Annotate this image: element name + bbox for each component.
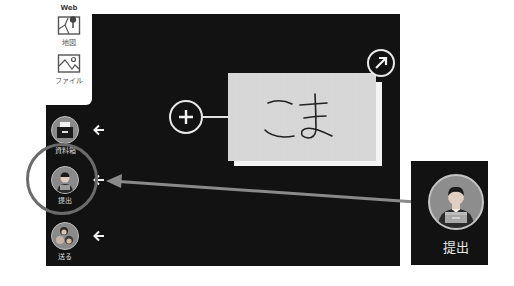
add-button[interactable] bbox=[169, 100, 203, 134]
callout-label: 提出 bbox=[411, 237, 501, 256]
tool-file[interactable]: ファイル bbox=[46, 52, 92, 85]
plus-icon bbox=[171, 102, 201, 132]
submit-person-icon bbox=[428, 174, 484, 230]
expand-button[interactable] bbox=[367, 49, 395, 77]
handwritten-card[interactable] bbox=[228, 73, 376, 161]
document-box-icon bbox=[51, 116, 79, 144]
arrow-up-right-icon bbox=[369, 51, 393, 75]
sidebar-label-send: 送る bbox=[50, 251, 80, 261]
arrow-left-icon bbox=[92, 123, 106, 137]
highlight-ring bbox=[26, 143, 98, 215]
card-connector bbox=[203, 116, 228, 118]
image-file-icon bbox=[57, 52, 81, 74]
tool-map-label: 地図 bbox=[46, 37, 92, 47]
sidebar-item-send[interactable]: 送る bbox=[50, 222, 80, 261]
web-section-label: Web bbox=[46, 4, 92, 12]
tool-file-label: ファイル bbox=[46, 75, 92, 85]
send-people-icon bbox=[51, 222, 79, 250]
map-icon bbox=[57, 14, 81, 36]
submit-callout: 提出 bbox=[411, 161, 488, 265]
web-tool-panel: Web 地図 ファイル bbox=[46, 0, 92, 105]
tool-map[interactable]: 地図 bbox=[46, 14, 92, 47]
arrow-left-icon bbox=[92, 229, 106, 243]
handwriting-koma bbox=[228, 73, 376, 161]
